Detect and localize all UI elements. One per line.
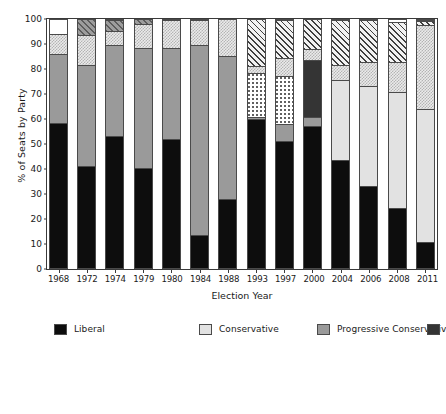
- bar-segment-liberal[interactable]: [247, 119, 266, 269]
- bar-segment-other[interactable]: [388, 19, 407, 22]
- bar-segment-conservative[interactable]: [359, 86, 378, 187]
- x-tick-mark: [397, 269, 398, 273]
- bar-segment-bloc[interactable]: [416, 21, 435, 25]
- bar-segment-conservative[interactable]: [416, 109, 435, 242]
- bar-segment-other[interactable]: [331, 19, 350, 20]
- bar-segment-ndp[interactable]: [105, 31, 124, 45]
- bar-segment-other[interactable]: [190, 19, 209, 20]
- x-tick-mark: [341, 269, 342, 273]
- legend-item-liberal[interactable]: Liberal: [54, 324, 199, 335]
- bar-segment-ndp[interactable]: [359, 62, 378, 85]
- x-tick-label-2008: 2008: [389, 274, 408, 288]
- x-tick-mark: [256, 269, 257, 273]
- bar-segment-pc[interactable]: [49, 54, 68, 122]
- bar-segment-socialcredit[interactable]: [134, 19, 153, 24]
- bar-1974[interactable]: [105, 19, 124, 269]
- bar-segment-ndp[interactable]: [218, 19, 237, 56]
- bar-segment-ndp[interactable]: [275, 58, 294, 75]
- bar-segment-liberal[interactable]: [303, 126, 322, 269]
- bar-segment-alliance[interactable]: [303, 60, 322, 117]
- x-tick-label-1974: 1974: [105, 274, 124, 288]
- bar-segment-liberal[interactable]: [218, 199, 237, 269]
- bar-segment-ndp[interactable]: [190, 20, 209, 45]
- bar-segment-pc[interactable]: [275, 124, 294, 140]
- bar-segment-pc[interactable]: [134, 48, 153, 168]
- x-tick-label-1993: 1993: [247, 274, 266, 288]
- bar-segment-bloc[interactable]: [275, 20, 294, 58]
- bar-segment-liberal[interactable]: [359, 186, 378, 269]
- bar-segment-conservative[interactable]: [331, 80, 350, 160]
- legend-label: Liberal: [74, 324, 105, 334]
- bar-segment-liberal[interactable]: [105, 136, 124, 270]
- bar-segment-pc[interactable]: [162, 48, 181, 139]
- bar-segment-pc[interactable]: [303, 117, 322, 127]
- bar-segment-liberal[interactable]: [49, 123, 68, 270]
- x-tick-label-2006: 2006: [360, 274, 379, 288]
- bar-2000[interactable]: [303, 19, 322, 269]
- bar-segment-ndp[interactable]: [247, 66, 266, 74]
- bar-segment-other[interactable]: [275, 19, 294, 20]
- bar-1993[interactable]: [247, 19, 266, 269]
- bar-segment-liberal[interactable]: [416, 242, 435, 269]
- bar-segment-pc[interactable]: [105, 45, 124, 136]
- bar-1984[interactable]: [190, 19, 209, 269]
- bar-segment-liberal[interactable]: [331, 160, 350, 269]
- bar-segment-ndp[interactable]: [49, 34, 68, 55]
- bar-segment-bloc[interactable]: [388, 22, 407, 62]
- bar-segment-other[interactable]: [105, 19, 124, 20]
- bar-segment-pc[interactable]: [190, 45, 209, 235]
- bar-segment-ndp[interactable]: [162, 20, 181, 48]
- bar-1997[interactable]: [275, 19, 294, 269]
- bar-segment-other[interactable]: [416, 19, 435, 20]
- x-tick-label-1979: 1979: [133, 274, 152, 288]
- bar-segment-green[interactable]: [416, 20, 435, 21]
- legend-item-alliance[interactable]: Canadian Alliance: [427, 324, 446, 335]
- legend-swatch-liberal-icon: [54, 324, 67, 335]
- bar-1968[interactable]: [49, 19, 68, 269]
- bar-segment-bloc[interactable]: [331, 20, 350, 65]
- bar-1980[interactable]: [162, 19, 181, 269]
- bar-segment-other[interactable]: [49, 19, 68, 34]
- bar-segment-ndp[interactable]: [303, 49, 322, 60]
- bar-segment-liberal[interactable]: [134, 168, 153, 269]
- bar-segment-liberal[interactable]: [77, 166, 96, 269]
- bar-segment-liberal[interactable]: [388, 208, 407, 269]
- bar-segment-ndp[interactable]: [134, 24, 153, 49]
- bar-segment-other[interactable]: [162, 19, 181, 20]
- bar-segment-reform[interactable]: [275, 76, 294, 125]
- legend-item-conservative[interactable]: Conservative: [199, 324, 317, 335]
- x-tick-label-2011: 2011: [417, 274, 436, 288]
- bar-2006[interactable]: [359, 19, 378, 269]
- x-tick-mark: [59, 269, 60, 273]
- bar-segment-bloc[interactable]: [303, 19, 322, 49]
- bar-segment-ndp[interactable]: [331, 65, 350, 80]
- bar-segment-bloc[interactable]: [247, 19, 266, 66]
- bar-segment-bloc[interactable]: [359, 20, 378, 62]
- legend-item-pc[interactable]: Progressive Conservative: [317, 324, 427, 335]
- bar-segment-ndp[interactable]: [416, 25, 435, 108]
- bar-segment-pc[interactable]: [247, 117, 266, 119]
- bar-segment-ndp[interactable]: [77, 35, 96, 65]
- legend-swatch-pc-icon: [317, 324, 330, 335]
- bar-2011[interactable]: [416, 19, 435, 269]
- bar-segment-socialcredit[interactable]: [77, 19, 96, 35]
- bar-segment-pc[interactable]: [218, 56, 237, 199]
- bar-1972[interactable]: [77, 19, 96, 269]
- bar-segment-liberal[interactable]: [190, 235, 209, 269]
- bar-1988[interactable]: [218, 19, 237, 269]
- bar-segment-liberal[interactable]: [162, 139, 181, 269]
- bar-2008[interactable]: [388, 19, 407, 269]
- bar-segment-liberal[interactable]: [275, 141, 294, 269]
- bar-2004[interactable]: [331, 19, 350, 269]
- bar-segment-reform[interactable]: [247, 73, 266, 117]
- bar-segment-socialcredit[interactable]: [105, 20, 124, 31]
- x-tick-mark: [200, 269, 201, 273]
- bar-1979[interactable]: [134, 19, 153, 269]
- x-axis-tick-labels: 1968197219741979198019841988199319972000…: [46, 274, 438, 288]
- bar-segment-conservative[interactable]: [388, 92, 407, 208]
- chart-legend: LiberalConservativeProgressive Conservat…: [54, 318, 440, 408]
- bar-segment-pc[interactable]: [77, 65, 96, 166]
- bar-segment-ndp[interactable]: [388, 62, 407, 92]
- bars-container: [47, 19, 437, 269]
- bar-segment-other[interactable]: [359, 19, 378, 20]
